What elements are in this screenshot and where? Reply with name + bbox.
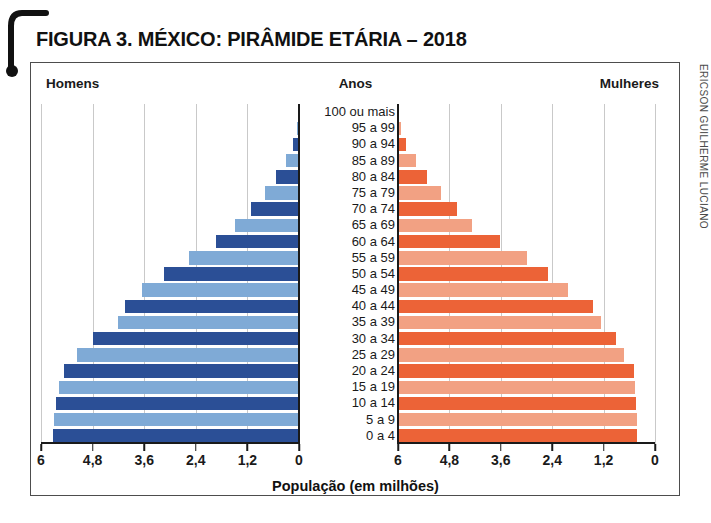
bar [398, 413, 637, 427]
age-group-label: 80 a 84 [301, 169, 397, 185]
x-tick-labels-women: 01,22,43,64,86 [398, 452, 655, 470]
bar [189, 251, 299, 265]
tick-label: 4,8 [83, 452, 102, 468]
image-credit: ERICSON GUILHERME LUCIANO [695, 64, 709, 364]
bar-row [398, 379, 655, 395]
bar [56, 397, 299, 411]
bar [398, 202, 457, 216]
age-group-label: 5 a 9 [301, 412, 397, 428]
bar [398, 283, 568, 297]
tick-label: 0 [295, 452, 303, 468]
tick-mark [40, 444, 42, 451]
bar [398, 381, 635, 395]
bar-row [398, 266, 655, 282]
tick-label: 2,4 [542, 452, 561, 468]
bar [398, 267, 548, 281]
tick-mark [195, 444, 197, 451]
bar-row [398, 250, 655, 266]
bar-row [41, 153, 299, 169]
bar-row [41, 185, 299, 201]
bar [398, 397, 636, 411]
age-group-label: 30 a 34 [301, 331, 397, 347]
bar [118, 316, 299, 330]
bar [398, 316, 601, 330]
bar-row [398, 412, 655, 428]
bar [77, 348, 299, 362]
column-caption-women: Mulheres [600, 76, 659, 91]
bar [54, 413, 299, 427]
age-group-label: 40 a 44 [301, 298, 397, 314]
bars-women [398, 104, 655, 444]
bar [398, 138, 406, 152]
bar-row [398, 282, 655, 298]
age-group-label: 100 ou mais [301, 104, 397, 120]
bar [398, 170, 427, 184]
bar [235, 219, 300, 233]
bar [398, 235, 500, 249]
age-group-label: 60 a 64 [301, 234, 397, 250]
bar-row [398, 314, 655, 330]
x-axis-men [41, 442, 299, 444]
x-tick-labels-men: 64,83,62,41,20 [41, 452, 299, 470]
bar [216, 235, 299, 249]
bar-row [41, 201, 299, 217]
bar-row [41, 363, 299, 379]
age-group-label: 65 a 69 [301, 217, 397, 233]
bar [276, 170, 299, 184]
tick-mark [298, 444, 300, 451]
bar-row [41, 104, 299, 120]
bar [398, 186, 441, 200]
bar [398, 219, 472, 233]
bar-row [41, 314, 299, 330]
tick-label: 3,6 [134, 452, 153, 468]
bar [64, 364, 299, 378]
bar-row [398, 169, 655, 185]
bar-row [398, 185, 655, 201]
age-group-label: 85 a 89 [301, 153, 397, 169]
bar-row [41, 282, 299, 298]
bar [142, 283, 299, 297]
bar [265, 186, 299, 200]
y-axis-men [298, 104, 300, 444]
tick-mark [397, 444, 399, 451]
tick-mark [551, 444, 553, 451]
gridline [655, 104, 656, 444]
bar-row [41, 395, 299, 411]
bar-row [41, 120, 299, 136]
age-group-label: 15 a 19 [301, 379, 397, 395]
tick-mark [92, 444, 94, 451]
bar [398, 364, 634, 378]
bar-row [41, 298, 299, 314]
bar [164, 267, 299, 281]
bar-row [41, 169, 299, 185]
tick-mark [500, 444, 502, 451]
age-group-label: 35 a 39 [301, 314, 397, 330]
bar-row [41, 412, 299, 428]
bar-row [41, 331, 299, 347]
bar-row [398, 136, 655, 152]
bar-row [41, 347, 299, 363]
x-axis-title: População (em milhões) [0, 478, 711, 494]
bar-row [398, 217, 655, 233]
age-group-label: 20 a 24 [301, 363, 397, 379]
bar [398, 154, 416, 168]
bar-row [41, 266, 299, 282]
age-group-label: 70 a 74 [301, 201, 397, 217]
bars-men [41, 104, 299, 444]
bar [53, 429, 299, 443]
bar-row [398, 395, 655, 411]
tick-mark [654, 444, 656, 451]
bar-row [41, 379, 299, 395]
bar-row [398, 153, 655, 169]
plot-area-women [398, 104, 655, 444]
tick-label: 6 [37, 452, 45, 468]
bar [251, 202, 299, 216]
bar [398, 348, 624, 362]
bar-row [41, 250, 299, 266]
bar-row [398, 331, 655, 347]
age-group-label: 25 a 29 [301, 347, 397, 363]
tick-mark [603, 444, 605, 451]
bar-row [398, 347, 655, 363]
figure-root: FIGURA 3. MÉXICO: PIRÂMIDE ETÁRIA – 2018… [0, 0, 711, 523]
tick-label: 3,6 [491, 452, 510, 468]
